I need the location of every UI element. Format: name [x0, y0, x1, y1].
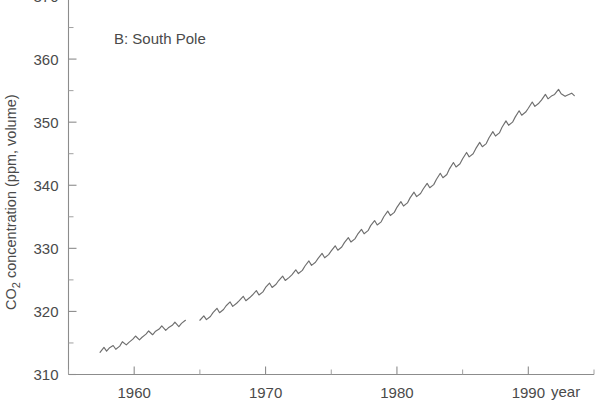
- x-axis-tick-labels: 1960197019801990: [118, 384, 546, 401]
- x-axis-unit-label: year: [551, 383, 580, 400]
- y-axis-title-rest: concentration (ppm, volume): [3, 94, 19, 282]
- y-axis-tick-labels: 310320330340350360370: [33, 0, 58, 383]
- y-tick-label: 370: [33, 0, 58, 5]
- y-tick-label: 330: [33, 240, 58, 257]
- x-axis-ticks: [69, 367, 595, 375]
- y-axis-title: CO2 concentration (ppm, volume): [3, 94, 22, 310]
- data-series-group: [100, 89, 574, 352]
- y-tick-label: 360: [33, 51, 58, 68]
- x-tick-label: 1980: [380, 384, 413, 401]
- series-line: [200, 89, 574, 320]
- y-tick-label: 340: [33, 177, 58, 194]
- y-axis-title-co: CO: [3, 288, 19, 310]
- x-tick-label: 1960: [118, 384, 151, 401]
- co2-line-chart: 310320330340350360370 1960197019801990 C…: [0, 0, 595, 409]
- y-tick-label: 320: [33, 303, 58, 320]
- y-tick-label: 310: [33, 366, 58, 383]
- y-axis-ticks: [69, 0, 77, 375]
- x-tick-label: 1990: [512, 384, 545, 401]
- chart-figure: 310320330340350360370 1960197019801990 C…: [0, 0, 595, 409]
- x-tick-label: 1970: [249, 384, 282, 401]
- series-line: [100, 320, 185, 352]
- y-tick-label: 350: [33, 114, 58, 131]
- panel-label: B: South Pole: [114, 30, 206, 47]
